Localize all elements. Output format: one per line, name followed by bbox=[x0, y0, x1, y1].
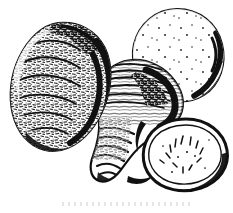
slice-bottom-right-inner-line bbox=[149, 125, 222, 184]
illustration-root bbox=[0, 0, 233, 213]
ginger-illustration-canvas bbox=[0, 0, 233, 213]
